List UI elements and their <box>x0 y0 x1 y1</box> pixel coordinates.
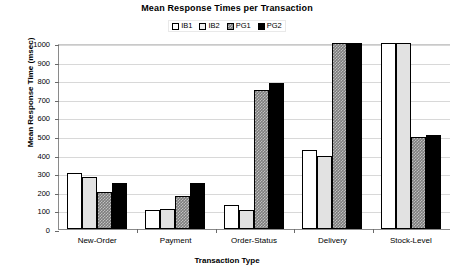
legend-label-pg1: PG1 <box>236 22 251 30</box>
y-axis-tick-mark <box>55 231 59 232</box>
plot-area: 10009008007006005004003002001000 <box>58 44 450 230</box>
x-axis-category-label: Delivery <box>293 236 371 245</box>
y-axis-tick-label: 800 <box>4 78 50 86</box>
bar-ib1-payment <box>145 210 160 229</box>
bar-pg2-payment <box>190 183 205 230</box>
chart-title: Mean Response Times per Transaction <box>0 3 454 13</box>
bar-group-bars <box>67 45 127 229</box>
y-axis-tick-label: 100 <box>4 208 50 216</box>
bar-group <box>137 45 215 229</box>
bar-ib1-order-status <box>224 205 239 229</box>
y-axis-tick-label: 600 <box>4 115 50 123</box>
legend-item-ib2: IB2 <box>199 22 219 30</box>
x-axis-category-label: New-Order <box>58 236 136 245</box>
bar-pg1-payment <box>175 196 190 229</box>
y-axis-tick-label: 0 <box>4 227 50 235</box>
x-axis-category-label: Payment <box>136 236 214 245</box>
bar-pg1-delivery <box>332 43 347 229</box>
bar-group <box>373 45 451 229</box>
x-axis-category-label: Stock-Level <box>372 236 450 245</box>
legend-item-pg1: PG1 <box>227 22 251 30</box>
y-axis-tick-label: 400 <box>4 153 50 161</box>
chart-figure: Mean Response Times per Transaction IB1 … <box>0 0 454 278</box>
bar-ib2-delivery <box>317 156 332 229</box>
legend-label-ib1: IB1 <box>181 22 192 30</box>
legend-swatch-icon-ib2 <box>199 23 206 30</box>
bar-ib1-delivery <box>302 150 317 229</box>
bar-pg2-stock-level <box>426 135 441 229</box>
bar-pg2-new-order <box>112 183 127 230</box>
y-axis-tick-label: 300 <box>4 171 50 179</box>
y-axis-tick-label: 1000 <box>4 41 50 49</box>
bar-pg1-order-status <box>254 90 269 229</box>
bar-ib2-payment <box>160 209 175 229</box>
legend-swatch-icon-pg2 <box>258 23 265 30</box>
bar-pg1-new-order <box>97 192 112 229</box>
legend-swatch-icon-ib1 <box>172 23 179 30</box>
bar-group <box>294 45 372 229</box>
bar-pg2-delivery <box>347 43 362 229</box>
bar-group <box>59 45 137 229</box>
legend-item-ib1: IB1 <box>172 22 192 30</box>
bar-ib2-order-status <box>239 210 254 229</box>
y-axis-tick-label: 900 <box>4 60 50 68</box>
legend-label-ib2: IB2 <box>208 22 219 30</box>
x-axis-tick-mark <box>373 229 374 233</box>
legend-item-pg2: PG2 <box>258 22 282 30</box>
bar-pg2-order-status <box>269 83 284 229</box>
bar-group-bars <box>224 45 284 229</box>
bar-group <box>216 45 294 229</box>
legend-swatch-icon-pg1 <box>227 23 234 30</box>
bar-ib1-stock-level <box>381 43 396 229</box>
legend-box: IB1 IB2 PG1 PG2 <box>168 20 286 32</box>
bar-group-bars <box>381 45 441 229</box>
bar-pg1-stock-level <box>411 137 426 229</box>
bar-group-bars <box>302 45 362 229</box>
x-axis-tick-mark <box>294 229 295 233</box>
x-axis-category-label: Order-Status <box>215 236 293 245</box>
x-axis-tick-mark <box>216 229 217 233</box>
y-axis-tick-label: 700 <box>4 97 50 105</box>
x-axis-tick-mark <box>137 229 138 233</box>
y-axis-tick-label: 500 <box>4 134 50 142</box>
bar-group-bars <box>145 45 205 229</box>
bar-ib2-stock-level <box>396 43 411 229</box>
chart-legend: IB1 IB2 PG1 PG2 <box>0 20 454 32</box>
y-axis-tick-label: 200 <box>4 190 50 198</box>
bar-ib2-new-order <box>82 177 97 229</box>
bar-ib1-new-order <box>67 173 82 229</box>
x-axis-title: Transaction Type <box>0 256 454 265</box>
legend-label-pg2: PG2 <box>267 22 282 30</box>
